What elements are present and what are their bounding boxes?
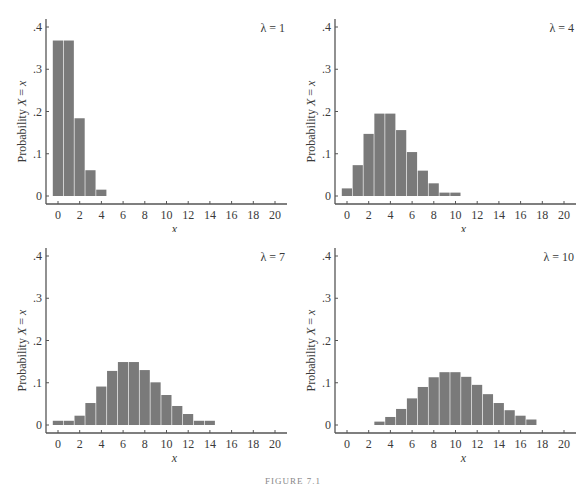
bar [85,170,95,196]
x-tick-label: 2 [366,208,372,222]
bar [450,193,460,196]
bar [429,183,439,196]
x-tick-label: 0 [55,437,61,451]
y-tick-label: .2 [33,105,42,119]
x-tick-label: 18 [247,208,259,222]
y-tick-label: .3 [322,291,331,305]
bars [53,41,107,196]
bar [374,422,384,425]
x-tick-label: 20 [269,437,281,451]
bar [505,410,515,425]
y-tick-label: .1 [33,147,42,161]
bar [439,372,449,425]
bar [461,377,471,425]
chart-panel-lambda-4: 0.1.2.3.402468101214161820xProbability X… [289,0,586,232]
y-tick-label: .1 [33,376,42,390]
bar [396,409,406,425]
y-tick-label: .2 [33,334,42,348]
bar [418,387,428,425]
bars [374,372,536,425]
bar [515,416,525,425]
bar [107,371,117,425]
x-axis-label: x [171,451,178,464]
x-tick-label: 8 [431,437,437,451]
x-tick-label: 8 [142,208,148,222]
x-tick-label: 14 [204,208,216,222]
y-tick-label: .4 [322,20,331,34]
y-tick-label: 0 [36,189,42,203]
x-tick-label: 14 [493,437,505,451]
x-tick-label: 2 [77,208,83,222]
x-tick-label: 0 [55,208,61,222]
bar [483,394,493,425]
x-tick-label: 16 [515,437,527,451]
bar [472,385,482,425]
x-tick-label: 12 [182,437,194,451]
x-tick-label: 12 [471,437,483,451]
x-tick-label: 16 [226,437,238,451]
x-tick-label: 8 [142,437,148,451]
bar [129,362,139,425]
x-tick-label: 18 [247,437,259,451]
bar [75,416,85,425]
x-tick-label: 20 [558,208,570,222]
x-tick-label: 18 [536,437,548,451]
lambda-label: λ = 4 [549,21,574,35]
bar [53,41,63,196]
x-tick-label: 8 [431,208,437,222]
y-tick-label: .1 [322,147,331,161]
bar [85,403,95,425]
bar [140,370,150,425]
x-tick-label: 20 [558,437,570,451]
bars [53,362,215,425]
x-tick-label: 4 [98,208,104,222]
bar [385,114,395,196]
x-tick-label: 4 [387,208,393,222]
y-tick-label: .4 [33,20,42,34]
x-tick-label: 12 [182,208,194,222]
x-tick-label: 14 [204,437,216,451]
chart-svg: 0.1.2.3.402468101214161820xProbability X… [0,0,293,232]
chart-svg: 0.1.2.3.402468101214161820xProbability X… [289,229,586,464]
x-tick-label: 20 [269,208,281,222]
y-tick-label: 0 [325,418,331,432]
bar [418,171,428,196]
bar [494,403,504,425]
bar [172,406,182,425]
y-tick-label: .3 [33,291,42,305]
x-tick-label: 4 [98,437,104,451]
lambda-label: λ = 10 [543,250,574,264]
y-tick-label: 0 [325,189,331,203]
bar [183,414,193,425]
bar [374,114,384,196]
x-tick-label: 18 [536,208,548,222]
lambda-label: λ = 1 [260,21,285,35]
x-tick-label: 2 [77,437,83,451]
bar [385,417,395,425]
bar [96,190,106,196]
bar [150,382,160,425]
y-tick-label: .3 [33,62,42,76]
x-tick-label: 10 [161,208,173,222]
figure-caption: FIGURE 7.1 [0,476,586,484]
bar [64,41,74,196]
bar [194,421,204,425]
x-tick-label: 16 [515,208,527,222]
x-tick-label: 14 [493,208,505,222]
bar [429,377,439,425]
chart-panel-lambda-7: 0.1.2.3.402468101214161820xProbability X… [0,229,293,464]
x-tick-label: 6 [409,208,415,222]
x-tick-label: 4 [387,437,393,451]
y-tick-label: 0 [36,418,42,432]
bar [439,193,449,196]
bar [450,372,460,425]
x-tick-label: 0 [344,437,350,451]
x-tick-label: 0 [344,208,350,222]
bar [53,421,63,425]
bar [161,395,171,425]
x-tick-label: 10 [161,437,173,451]
chart-panel-lambda-1: 0.1.2.3.402468101214161820xProbability X… [0,0,293,232]
chart-svg: 0.1.2.3.402468101214161820xProbability X… [0,229,293,464]
bar [205,421,215,425]
y-axis-label: Probability X = x [15,80,29,162]
